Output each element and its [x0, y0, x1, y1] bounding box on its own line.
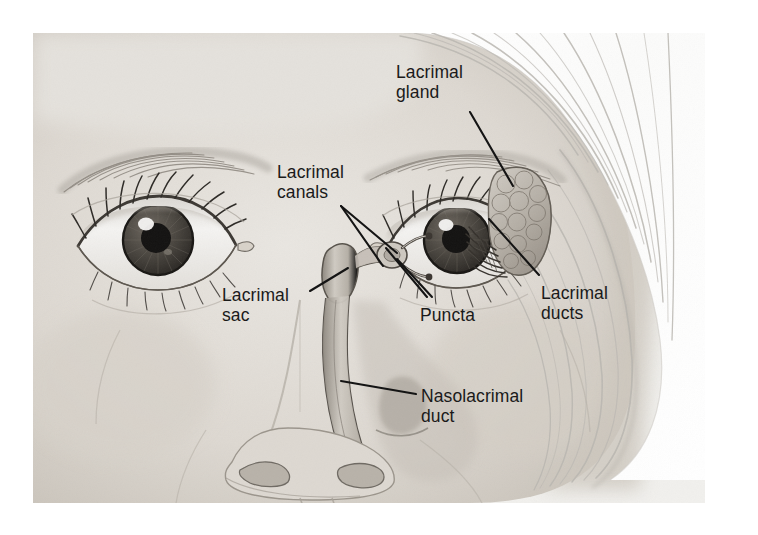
label-lacrimal-gland: Lacrimal gland	[396, 62, 463, 102]
label-puncta: Puncta	[420, 305, 475, 325]
label-lacrimal-canals: Lacrimal canals	[277, 162, 344, 202]
label-nasolacrimal-duct: Nasolacrimal duct	[421, 386, 523, 426]
illustration-plate	[25, 33, 705, 528]
lacrimal-apparatus-illustration	[0, 0, 758, 535]
label-lacrimal-sac: Lacrimal sac	[222, 285, 289, 325]
illustration-stage: Lacrimal gland Lacrimal canals Lacrimal …	[0, 0, 758, 535]
paper-grain	[33, 33, 705, 503]
label-lacrimal-ducts: Lacrimal ducts	[541, 283, 608, 323]
